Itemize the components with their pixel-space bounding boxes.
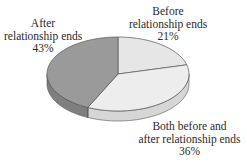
slice-label-after: After relationship ends 43% <box>4 17 82 55</box>
label-line: Both before and <box>133 120 246 133</box>
slice-label-both: Both before and after relationship ends … <box>133 120 246 158</box>
label-percent: 21% <box>128 30 208 43</box>
slice-label-before: Before relationship ends 21% <box>128 5 208 43</box>
label-percent: 36% <box>133 145 246 158</box>
label-line: relationship ends <box>128 18 208 31</box>
label-line: relationship ends <box>4 30 82 43</box>
label-percent: 43% <box>4 42 82 55</box>
label-line: After <box>4 17 82 30</box>
label-line: after relationship ends <box>133 133 246 146</box>
label-line: Before <box>128 5 208 18</box>
